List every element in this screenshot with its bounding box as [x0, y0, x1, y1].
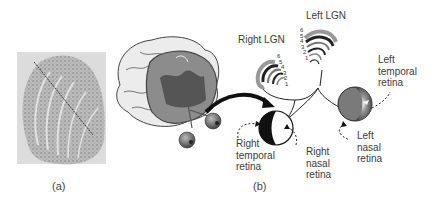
diagram-canvas — [0, 0, 431, 202]
left-nasal-retina-label: Left nasal retina — [357, 130, 382, 165]
left-lgn-illustration — [305, 32, 336, 64]
panel-a-caption: (a) — [52, 180, 65, 192]
lgn-micrograph — [17, 52, 106, 164]
left-lgn-layer-numbers: 6 5 4 3 2 1 — [300, 28, 308, 61]
left-temporal-retina-label: Left temporal retina — [378, 54, 417, 89]
right-temporal-retina-label: Right temporal retina — [236, 138, 275, 173]
brain-illustration — [117, 37, 221, 148]
small-eye-right-icon — [205, 113, 221, 129]
small-eye-left-icon — [179, 132, 195, 148]
right-nasal-retina-label: Right nasal retina — [306, 146, 331, 181]
left-eye — [338, 87, 372, 121]
right-lgn-layer-numbers: 6 5 4 3 2 1 — [277, 54, 288, 87]
left-lgn-label: Left LGN — [306, 10, 346, 22]
panel-b-caption: (b) — [253, 180, 266, 192]
right-lgn-label: Right LGN — [238, 34, 285, 46]
